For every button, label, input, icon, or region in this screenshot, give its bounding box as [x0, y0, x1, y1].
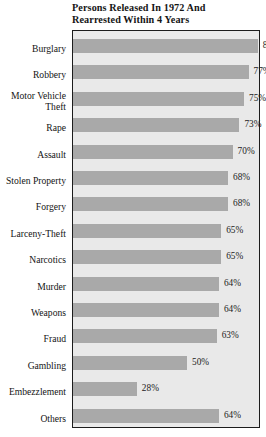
bar-row: 81%	[73, 33, 259, 59]
bar-row: 64%	[73, 271, 259, 297]
bar	[73, 65, 249, 79]
bar	[73, 250, 221, 264]
bar-value-label: 64%	[224, 275, 241, 291]
bar	[73, 303, 219, 317]
bar	[73, 329, 217, 343]
bar-row: 68%	[73, 165, 259, 191]
bar-value-label: 28%	[142, 380, 159, 396]
category-label: Murder	[0, 281, 66, 292]
bar-row: 65%	[73, 218, 259, 244]
bar-value-label: 65%	[226, 248, 243, 264]
bar-value-label: 65%	[226, 222, 243, 238]
category-label: Stolen Property	[0, 175, 66, 186]
category-label: Embezzlement	[0, 386, 66, 397]
category-label: Fraud	[0, 333, 66, 344]
chart-title: Persons Released In 1972 And Rearrested …	[72, 2, 262, 27]
bar	[73, 197, 228, 211]
category-label: Larceny-Theft	[0, 228, 66, 239]
bar	[73, 277, 219, 291]
category-label: Rape	[0, 122, 66, 133]
category-label: Assault	[0, 149, 66, 160]
plot-area: 81%77%75%73%70%68%68%65%65%64%64%63%50%2…	[72, 30, 260, 428]
bar	[73, 171, 228, 185]
bar	[73, 356, 187, 370]
bar-row: 64%	[73, 403, 259, 429]
bar	[73, 224, 221, 238]
bar-value-label: 77%	[254, 63, 266, 79]
bar-row: 77%	[73, 59, 259, 85]
bar-value-label: 68%	[233, 169, 250, 185]
category-label: Gambling	[0, 360, 66, 371]
category-label: Robbery	[0, 69, 66, 80]
bar-row: 64%	[73, 297, 259, 323]
bar	[73, 145, 233, 159]
bar-row: 75%	[73, 86, 259, 112]
category-label: Motor Vehicle Theft	[0, 90, 66, 112]
bar-value-label: 73%	[244, 116, 261, 132]
bar-chart-figure: Persons Released In 1972 And Rearrested …	[0, 0, 266, 437]
bar-row: 63%	[73, 323, 259, 349]
bar-value-label: 63%	[222, 327, 239, 343]
bar-value-label: 64%	[224, 301, 241, 317]
category-label: Narcotics	[0, 254, 66, 265]
category-label: Others	[0, 413, 66, 424]
bar-row: 73%	[73, 112, 259, 138]
bar-value-label: 75%	[249, 90, 266, 106]
bar-row: 68%	[73, 191, 259, 217]
bar	[73, 92, 244, 106]
bar-row: 28%	[73, 376, 259, 402]
bar	[73, 39, 258, 53]
bar-row: 65%	[73, 244, 259, 270]
bar-value-label: 50%	[192, 354, 209, 370]
bar-value-label: 64%	[224, 407, 241, 423]
bar-row: 70%	[73, 139, 259, 165]
bar-value-label: 70%	[238, 143, 255, 159]
category-label: Burglary	[0, 43, 66, 54]
category-label: Forgery	[0, 201, 66, 212]
bar-value-label: 68%	[233, 195, 250, 211]
bar-row: 50%	[73, 350, 259, 376]
bar	[73, 118, 239, 132]
category-label: Weapons	[0, 307, 66, 318]
bar	[73, 382, 137, 396]
bar-value-label: 81%	[263, 37, 266, 53]
bar	[73, 409, 219, 423]
plot-inner: 81%77%75%73%70%68%68%65%65%64%64%63%50%2…	[73, 31, 259, 427]
